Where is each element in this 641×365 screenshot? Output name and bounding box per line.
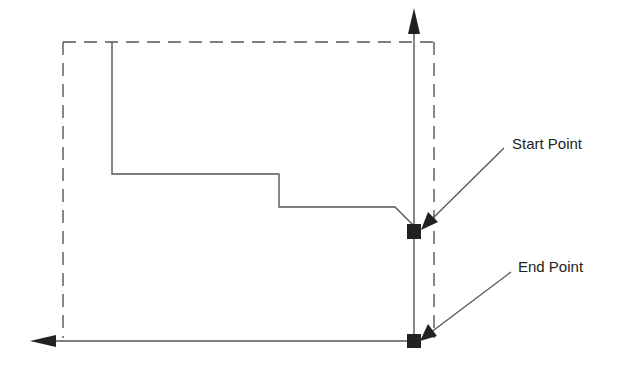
arrow-up-icon	[408, 8, 420, 34]
horizontal-axis	[30, 335, 414, 347]
stock-boundary	[63, 42, 434, 338]
end-point-label: End Point	[518, 258, 583, 275]
vertical-axis	[408, 8, 420, 341]
start-point-marker	[407, 224, 421, 239]
leader-arrow-icon	[421, 212, 438, 230]
part-profile	[112, 42, 414, 226]
arrow-left-icon	[30, 335, 56, 347]
toolpath-diagram	[0, 0, 641, 365]
start-point-label: Start Point	[512, 135, 582, 152]
end-point-marker	[407, 334, 421, 348]
